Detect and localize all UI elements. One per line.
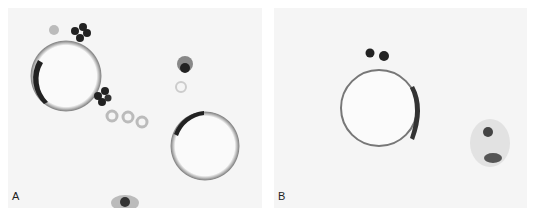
panel-label-a: A [12,190,19,202]
figure-panel-a: A [8,8,262,208]
micrograph-b [274,8,527,208]
micrograph-a [8,8,262,208]
figure-panel-b: B [274,8,527,208]
panel-label-b: B [278,190,285,202]
